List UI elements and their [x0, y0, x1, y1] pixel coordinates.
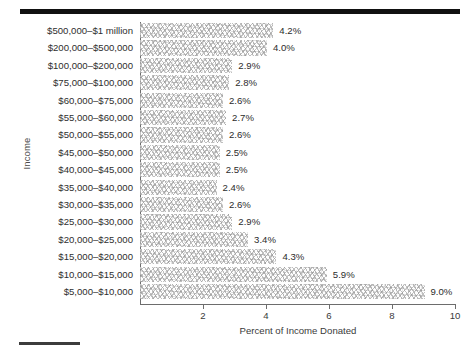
bar: [140, 110, 226, 125]
x-axis-tick-label: 6: [314, 310, 344, 321]
x-axis-line: [140, 304, 456, 305]
category-label: $20,000–$25,000: [0, 231, 133, 248]
x-axis-tick-label: 4: [251, 310, 281, 321]
bar-value-label: 2.7%: [232, 109, 254, 126]
category-label: $60,000–$75,000: [0, 92, 133, 109]
bar-value-label: 2.5%: [226, 144, 248, 161]
bar-value-label: 2.8%: [235, 74, 257, 91]
bar-value-label: 2.9%: [238, 213, 260, 230]
bar-row: $60,000–$75,0002.6%: [140, 92, 455, 109]
bar: [140, 40, 267, 55]
category-label: $40,000–$45,000: [0, 161, 133, 178]
bottom-horizontal-rule: [19, 342, 80, 345]
category-label: $45,000–$50,000: [0, 144, 133, 161]
x-axis-tick-label: 10: [440, 310, 470, 321]
category-label: $25,000–$30,000: [0, 213, 133, 230]
bar-row: $25,000–$30,0002.9%: [140, 213, 455, 230]
bar-value-label: 2.9%: [238, 57, 260, 74]
category-label: $75,000–$100,000: [0, 74, 133, 91]
category-label: $5,000–$10,000: [0, 283, 133, 300]
bar: [140, 127, 223, 142]
bar: [140, 23, 273, 38]
bar-value-label: 5.9%: [333, 266, 355, 283]
bar: [140, 249, 276, 264]
bar: [140, 214, 232, 229]
bar-value-label: 4.2%: [279, 22, 301, 39]
bar-value-label: 2.6%: [229, 92, 251, 109]
bar-row: $40,000–$45,0002.5%: [140, 161, 455, 178]
x-axis-tick: [329, 304, 330, 309]
category-label: $200,000–$500,000: [0, 39, 133, 56]
bar: [140, 162, 220, 177]
category-label: $30,000–$35,000: [0, 196, 133, 213]
x-axis-tick: [455, 304, 456, 309]
bar-row: $75,000–$100,0002.8%: [140, 74, 455, 91]
bar-value-label: 4.3%: [282, 248, 304, 265]
x-axis-tick: [203, 304, 204, 309]
bar-row: $30,000–$35,0002.6%: [140, 196, 455, 213]
category-label: $55,000–$60,000: [0, 109, 133, 126]
bar-row: $500,000–$1 million4.2%: [140, 22, 455, 39]
category-label: $15,000–$20,000: [0, 248, 133, 265]
bar-value-label: 2.6%: [229, 126, 251, 143]
x-axis-tick: [392, 304, 393, 309]
category-label: $35,000–$40,000: [0, 179, 133, 196]
bar-value-label: 2.4%: [223, 179, 245, 196]
bar: [140, 93, 223, 108]
bar: [140, 145, 220, 160]
category-label: $500,000–$1 million: [0, 22, 133, 39]
bar: [140, 180, 217, 195]
category-label: $50,000–$55,000: [0, 126, 133, 143]
bar-value-label: 4.0%: [273, 39, 295, 56]
bar-row: $5,000–$10,0009.0%: [140, 283, 455, 300]
x-axis-tick-label: 8: [377, 310, 407, 321]
bar-row: $50,000–$55,0002.6%: [140, 126, 455, 143]
bar-row: $10,000–$15,0005.9%: [140, 266, 455, 283]
category-label: $10,000–$15,000: [0, 266, 133, 283]
bar-chart: Income $500,000–$1 million4.2%$200,000–$…: [0, 0, 475, 357]
bar-row: $45,000–$50,0002.5%: [140, 144, 455, 161]
bar-row: $15,000–$20,0004.3%: [140, 248, 455, 265]
bar: [140, 58, 232, 73]
bar: [140, 197, 223, 212]
bar: [140, 232, 248, 247]
bar-row: $100,000–$200,0002.9%: [140, 57, 455, 74]
bar: [140, 284, 425, 299]
bar-value-label: 2.5%: [226, 161, 248, 178]
category-label: $100,000–$200,000: [0, 57, 133, 74]
bar-row: $20,000–$25,0003.4%: [140, 231, 455, 248]
bar: [140, 75, 229, 90]
x-axis-tick-label: 2: [188, 310, 218, 321]
bar-row: $200,000–$500,0004.0%: [140, 39, 455, 56]
bar-value-label: 3.4%: [254, 231, 276, 248]
bar-value-label: 9.0%: [431, 283, 453, 300]
x-axis-tick: [266, 304, 267, 309]
plot-area: $500,000–$1 million4.2%$200,000–$500,000…: [140, 22, 455, 304]
x-axis-title: Percent of Income Donated: [140, 325, 456, 336]
bar: [140, 267, 327, 282]
bar-row: $35,000–$40,0002.4%: [140, 179, 455, 196]
bar-value-label: 2.6%: [229, 196, 251, 213]
bar-row: $55,000–$60,0002.7%: [140, 109, 455, 126]
